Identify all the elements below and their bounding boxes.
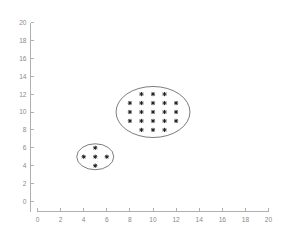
data-point-marker — [105, 155, 109, 159]
x-tick-label: 0 — [36, 216, 40, 223]
x-tick-label: 18 — [242, 216, 250, 223]
data-point-marker — [151, 128, 155, 132]
data-point-marker — [139, 101, 143, 105]
data-point-marker — [139, 119, 143, 123]
data-point-marker — [139, 110, 143, 114]
data-point-marker — [162, 128, 166, 132]
y-tick-label: 20 — [19, 19, 27, 26]
data-point-marker — [82, 155, 86, 159]
data-point-marker — [151, 92, 155, 96]
plot-canvas: 02468101214161820 02468101214161820 — [0, 0, 288, 241]
data-point-marker — [93, 164, 97, 168]
data-point-marker — [174, 110, 178, 114]
x-tick-label: 14 — [196, 216, 204, 223]
data-point-marker — [128, 110, 132, 114]
x-tick-label: 16 — [219, 216, 227, 223]
x-tick-label: 8 — [128, 216, 132, 223]
data-point-marker — [128, 119, 132, 123]
data-point-marker — [162, 119, 166, 123]
x-tick-label: 2 — [59, 216, 63, 223]
x-axis-ticks: 02468101214161820 — [36, 208, 273, 223]
data-point-marker — [174, 101, 178, 105]
y-tick-label: 6 — [23, 144, 27, 151]
x-tick-label: 12 — [172, 216, 180, 223]
data-point-marker — [162, 92, 166, 96]
y-tick-label: 16 — [19, 55, 27, 62]
data-points — [82, 92, 179, 168]
data-point-marker — [162, 110, 166, 114]
data-point-marker — [139, 92, 143, 96]
data-point-marker — [162, 101, 166, 105]
data-point-marker — [139, 128, 143, 132]
data-point-marker — [93, 146, 97, 150]
y-tick-label: 8 — [23, 126, 27, 133]
y-tick-label: 14 — [19, 73, 27, 80]
data-point-marker — [151, 119, 155, 123]
cluster-boundaries — [77, 86, 190, 169]
data-point-marker — [174, 119, 178, 123]
data-point-marker — [151, 110, 155, 114]
y-tick-label: 12 — [19, 91, 27, 98]
y-tick-label: 18 — [19, 37, 27, 44]
axes — [31, 23, 269, 212]
data-point-marker — [128, 101, 132, 105]
data-point-marker — [93, 155, 97, 159]
x-tick-label: 20 — [265, 216, 273, 223]
x-tick-label: 6 — [105, 216, 109, 223]
scatter-plot-figure: 02468101214161820 02468101214161820 — [0, 0, 288, 241]
y-tick-label: 2 — [23, 180, 27, 187]
y-tick-label: 0 — [23, 198, 27, 205]
y-tick-label: 4 — [23, 162, 27, 169]
x-tick-label: 4 — [82, 216, 86, 223]
data-point-marker — [151, 101, 155, 105]
y-tick-label: 10 — [19, 108, 27, 115]
y-axis-ticks: 02468101214161820 — [19, 19, 34, 205]
x-tick-label: 10 — [149, 216, 157, 223]
